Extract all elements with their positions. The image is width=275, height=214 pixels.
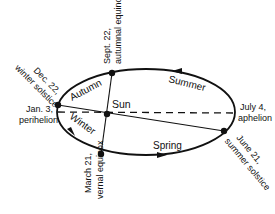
sun-label: Sun	[112, 98, 131, 110]
perihelion-label: perihelion	[19, 115, 58, 125]
aphelion-date: July 4,	[240, 102, 266, 112]
autumnal-equinox-date: Sept. 22,	[102, 28, 112, 64]
perihelion-date: Jan. 3,	[26, 104, 53, 114]
summer-solstice-point	[221, 128, 227, 134]
aphelion-label: aphelion	[238, 113, 272, 123]
arrow-spring-icon	[157, 152, 167, 158]
autumnal-equinox-label: autumnal equinox	[113, 0, 123, 64]
season-summer: Summer	[168, 73, 208, 93]
autumnal-equinox-point	[109, 70, 115, 76]
sun-point	[104, 111, 110, 117]
apsides-line	[58, 112, 235, 113]
vernal-equinox-date: March 21,	[83, 153, 93, 193]
season-spring: Spring	[153, 140, 182, 151]
vernal-equinox-label: vernal equinox	[95, 140, 105, 199]
orbit-diagram: Sun Autumn Summer Winter Spring Dec. 22,…	[0, 0, 275, 214]
